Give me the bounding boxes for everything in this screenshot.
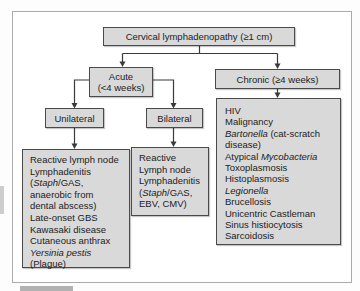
node-unilateral-label: Unilateral xyxy=(54,113,94,124)
box-chronic-causes: HIVMalignancyBartonella (cat-scratchdise… xyxy=(216,98,341,245)
node-cervical-lymphadenopathy-label: Cervical lymphadenopathy (≥1 cm) xyxy=(126,31,273,42)
box-bilateral-causes: ReactiveLymph nodeLymphadenitis(Staph/GA… xyxy=(131,147,209,216)
node-acute-label-line1: Acute xyxy=(109,71,133,82)
node-cervical-lymphadenopathy: Cervical lymphadenopathy (≥1 cm) xyxy=(103,27,295,46)
node-acute-label-line2: (<4 weeks) xyxy=(98,82,145,93)
flowchart-figure: Cervical lymphadenopathy (≥1 cm) Acute (… xyxy=(0,0,360,291)
node-chronic-label: Chronic (≥4 weeks) xyxy=(237,74,319,85)
node-chronic: Chronic (≥4 weeks) xyxy=(215,69,340,89)
scan-artifact-bottom xyxy=(20,286,73,291)
node-bilateral: Bilateral xyxy=(146,108,203,128)
node-unilateral: Unilateral xyxy=(45,108,104,128)
scan-artifact-left xyxy=(0,186,4,214)
node-acute: Acute (<4 weeks) xyxy=(89,67,153,97)
box-unilateral-causes: Reactive lymph nodeLymphadenitis(Staph/G… xyxy=(22,149,130,268)
node-bilateral-label: Bilateral xyxy=(157,113,191,124)
